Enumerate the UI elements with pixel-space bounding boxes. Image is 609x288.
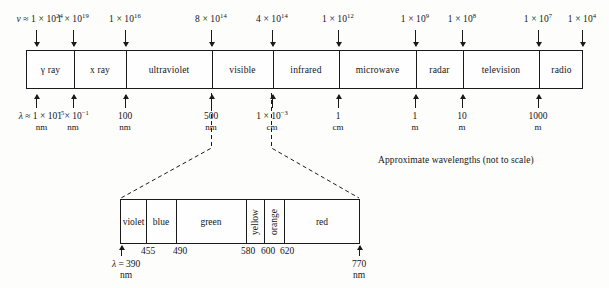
frequency-tick-arrow-icon — [462, 30, 463, 46]
frequency-label: 1 × 1012 — [322, 14, 354, 25]
band-divider — [463, 51, 464, 88]
frequency-tick-arrow-icon — [73, 30, 74, 46]
band-divider — [539, 51, 540, 88]
frequency-tick-arrow-icon — [338, 30, 339, 46]
band-label-xray: x ray — [90, 65, 110, 75]
spectrum-band: γ rayx rayultravioletvisibleinfraredmicr… — [26, 50, 583, 89]
visible-tick-label: 600 — [261, 246, 275, 256]
wavelength-label: 100nm — [118, 111, 132, 132]
frequency-label: 1 × 107 — [524, 14, 552, 25]
visible-color-divider — [284, 200, 285, 243]
band-label-radio: radio — [551, 65, 571, 75]
frequency-label: ν ≈ 1 × 1024 — [17, 14, 63, 25]
visible-color-label-orange: orange — [269, 209, 279, 235]
frequency-label: 1 × 108 — [448, 14, 476, 25]
frequency-label: 1 × 104 — [568, 14, 596, 25]
frequency-tick-arrow-icon — [538, 30, 539, 46]
frequency-label: 1 × 1019 — [57, 14, 89, 25]
band-label-ultraviolet: ultraviolet — [149, 65, 190, 75]
frequency-tick-arrow-icon — [272, 30, 273, 46]
frequency-label: 1 × 1016 — [109, 14, 141, 25]
wavelength-tick-arrow-icon — [36, 95, 37, 108]
band-divider — [126, 51, 127, 88]
wavelength-label: 1 × 10−1nm — [57, 111, 88, 132]
visible-color-divider — [146, 200, 147, 243]
wavelength-tick-arrow-icon — [462, 95, 463, 108]
band-label-radar: radar — [429, 65, 449, 75]
band-divider — [339, 51, 340, 88]
frequency-tick-arrow-icon — [582, 30, 583, 46]
wavelength-label: 1cm — [333, 111, 344, 132]
wavelength-label: 1000m — [529, 111, 548, 132]
wavelength-label: 1 × 10−3cm — [256, 111, 287, 132]
em-spectrum-diagram: ν ≈ 1 × 10241 × 10191 × 10168 × 10144 × … — [0, 0, 609, 288]
wavelength-tick-arrow-icon — [338, 95, 339, 108]
frequency-label: 8 × 1014 — [195, 14, 227, 25]
visible-color-label-violet: violet — [123, 217, 145, 227]
visible-tick-label: 490 — [173, 246, 187, 256]
band-label-ray: γ ray — [41, 65, 60, 75]
frequency-label: 4 × 1014 — [256, 14, 288, 25]
visible-endpoint-label: λ = 390nm — [112, 259, 140, 280]
frequency-tick-arrow-icon — [415, 30, 416, 46]
band-divider — [74, 51, 75, 88]
visible-color-label-yellow: yellow — [250, 209, 260, 235]
frequency-label: 1 × 109 — [401, 14, 429, 25]
visible-color-label-blue: blue — [153, 217, 169, 227]
visible-color-label-green: green — [200, 217, 221, 227]
wavelength-tick-arrow-icon — [538, 95, 539, 108]
band-divider — [212, 51, 213, 88]
visible-spectrum-detail-box: violetbluegreenyelloworangered — [120, 199, 360, 244]
visible-endpoint-arrow-icon — [121, 246, 122, 256]
band-label-microwave: microwave — [356, 65, 400, 75]
wavelength-tick-arrow-icon — [272, 95, 273, 108]
band-label-infrared: infrared — [290, 65, 321, 75]
visible-color-divider — [264, 200, 265, 243]
visible-color-divider — [246, 200, 247, 243]
connector-left — [121, 93, 212, 198]
wavelength-tick-arrow-icon — [415, 95, 416, 108]
visible-color-divider — [176, 200, 177, 243]
visible-tick-label: 620 — [280, 246, 294, 256]
wavelength-label: 1m — [411, 111, 418, 132]
visible-endpoint-arrow-icon — [359, 246, 360, 256]
visible-color-label-red: red — [316, 217, 328, 227]
wavelength-tick-arrow-icon — [125, 95, 126, 108]
wavelength-tick-arrow-icon — [211, 95, 212, 108]
wavelength-tick-arrow-icon — [73, 95, 74, 108]
frequency-tick-arrow-icon — [36, 30, 37, 46]
frequency-tick-arrow-icon — [125, 30, 126, 46]
band-label-television: television — [482, 65, 520, 75]
band-divider — [416, 51, 417, 88]
wavelength-label: 10m — [457, 111, 467, 132]
visible-tick-label: 455 — [141, 246, 155, 256]
band-label-visible: visible — [229, 65, 255, 75]
callout-connectors — [0, 0, 609, 288]
band-divider — [273, 51, 274, 88]
wavelength-label: 500nm — [204, 111, 218, 132]
frequency-tick-arrow-icon — [211, 30, 212, 46]
diagram-caption: Approximate wavelengths (not to scale) — [378, 155, 534, 165]
visible-endpoint-label: 770nm — [352, 259, 366, 280]
visible-tick-label: 580 — [241, 246, 255, 256]
